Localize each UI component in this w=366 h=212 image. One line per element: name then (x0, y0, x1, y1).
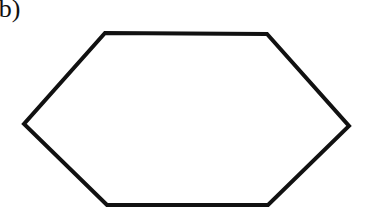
hexagon-shape (24, 33, 349, 205)
hexagon-diagram (0, 0, 366, 212)
